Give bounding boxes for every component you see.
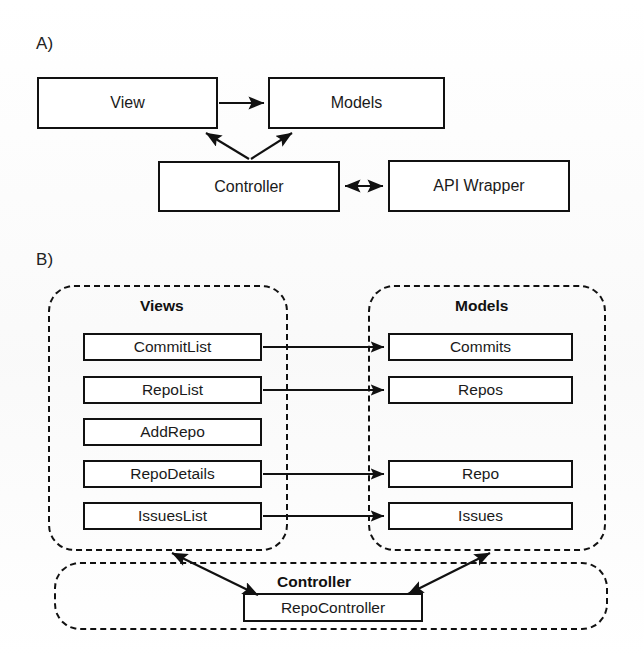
group-controller-title: Controller <box>277 573 351 591</box>
node-repodetails-label: RepoDetails <box>130 466 214 482</box>
node-repo-label: Repo <box>462 466 499 482</box>
group-views-title: Views <box>140 297 184 315</box>
node-commits[interactable]: Commits <box>388 333 573 361</box>
edge-controller-to-view <box>206 133 249 159</box>
node-addrepo[interactable]: AddRepo <box>83 418 262 446</box>
node-issueslist-label: IssuesList <box>138 508 207 524</box>
node-repodetails[interactable]: RepoDetails <box>83 460 262 488</box>
node-api-wrapper-label: API Wrapper <box>433 178 524 194</box>
node-repocontroller[interactable]: RepoController <box>243 593 423 622</box>
node-api-wrapper[interactable]: API Wrapper <box>388 160 570 212</box>
node-issues-label: Issues <box>458 508 503 524</box>
node-repos-label: Repos <box>458 382 503 398</box>
node-issueslist[interactable]: IssuesList <box>83 502 262 530</box>
node-controller-label: Controller <box>214 179 283 195</box>
node-view[interactable]: View <box>37 77 218 129</box>
node-models[interactable]: Models <box>268 77 445 129</box>
panel-a-label: A) <box>36 34 53 54</box>
panel-b-label: B) <box>36 250 53 270</box>
node-repolist[interactable]: RepoList <box>83 376 262 404</box>
node-models-label: Models <box>331 95 383 111</box>
node-repolist-label: RepoList <box>142 382 203 398</box>
edge-controller-to-models <box>251 133 292 159</box>
node-view-label: View <box>110 95 144 111</box>
node-controller[interactable]: Controller <box>158 161 340 212</box>
node-issues[interactable]: Issues <box>388 502 573 530</box>
group-models-title: Models <box>455 297 508 315</box>
node-addrepo-label: AddRepo <box>140 424 205 440</box>
node-commits-label: Commits <box>450 339 511 355</box>
figure-canvas: A) View Models Controller API Wrapper B)… <box>0 0 644 657</box>
node-repocontroller-label: RepoController <box>281 600 385 616</box>
node-commitlist[interactable]: CommitList <box>83 333 262 361</box>
node-repo[interactable]: Repo <box>388 460 573 488</box>
node-repos[interactable]: Repos <box>388 376 573 404</box>
node-commitlist-label: CommitList <box>134 339 212 355</box>
